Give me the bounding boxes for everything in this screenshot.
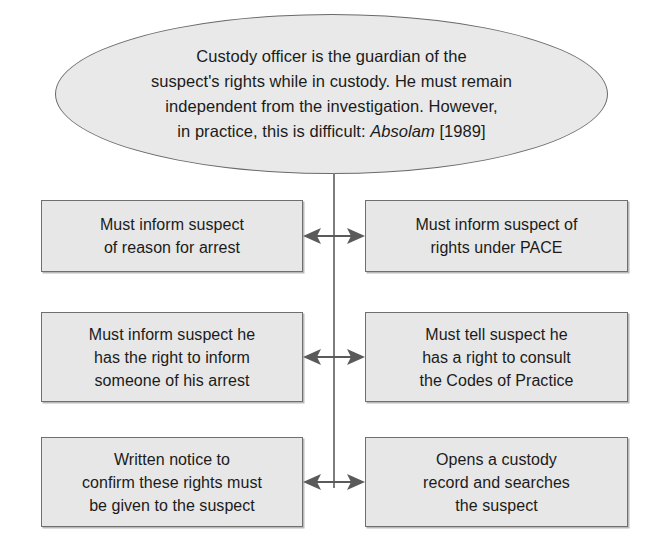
root-line-4-text: in practice, this is difficult: (177, 122, 365, 140)
diagram-canvas: Custody officer is the guardian of the s… (0, 0, 659, 559)
node-row2-right-text: Must tell suspect he has a right to cons… (411, 323, 581, 392)
case-citation-name: Absolam (370, 122, 435, 140)
node-row3-left-line-2: confirm these rights must (82, 471, 262, 494)
node-row2-left-text: Must inform suspect he has the right to … (81, 323, 264, 392)
node-row2-right: Must tell suspect he has a right to cons… (365, 312, 628, 402)
node-row2-right-line-1: Must tell suspect he (419, 323, 573, 346)
root-ellipse-text: Custody officer is the guardian of the s… (103, 44, 560, 144)
node-row2-left-line-3: someone of his arrest (89, 369, 256, 392)
vertical-connector-line (333, 173, 335, 488)
root-ellipse-node: Custody officer is the guardian of the s… (55, 14, 608, 174)
node-row3-right-text: Opens a custody record and searches the … (415, 448, 578, 517)
case-citation-year: [1989] (439, 122, 485, 140)
node-row3-left-text: Written notice to confirm these rights m… (74, 448, 270, 517)
node-row3-right-line-1: Opens a custody (423, 448, 570, 471)
node-row2-left: Must inform suspect he has the right to … (41, 312, 303, 402)
node-row1-left-line-2: of reason for arrest (100, 236, 244, 259)
node-row1-left-line-1: Must inform suspect (100, 213, 244, 236)
node-row3-left: Written notice to confirm these rights m… (41, 437, 303, 527)
node-row1-right: Must inform suspect of rights under PACE (365, 200, 628, 272)
node-row3-left-line-1: Written notice to (82, 448, 262, 471)
node-row1-left: Must inform suspect of reason for arrest (41, 200, 303, 272)
node-row1-right-text: Must inform suspect of rights under PACE (407, 213, 585, 259)
node-row3-left-line-3: be given to the suspect (82, 494, 262, 517)
node-row1-left-text: Must inform suspect of reason for arrest (92, 213, 252, 259)
node-row2-right-line-2: has a right to consult (419, 346, 573, 369)
node-row1-right-line-1: Must inform suspect of (415, 213, 577, 236)
root-line-1: Custody officer is the guardian of the (151, 44, 512, 69)
node-row3-right-line-3: the suspect (423, 494, 570, 517)
root-line-4: in practice, this is difficult: Absolam … (151, 119, 512, 144)
root-line-2: suspect's rights while in custody. He mu… (151, 69, 512, 94)
node-row3-right: Opens a custody record and searches the … (365, 437, 628, 527)
node-row2-left-line-2: has the right to inform (89, 346, 256, 369)
node-row2-right-line-3: the Codes of Practice (419, 369, 573, 392)
node-row1-right-line-2: rights under PACE (415, 236, 577, 259)
root-line-3: independent from the investigation. Howe… (151, 94, 512, 119)
node-row2-left-line-1: Must inform suspect he (89, 323, 256, 346)
node-row3-right-line-2: record and searches (423, 471, 570, 494)
